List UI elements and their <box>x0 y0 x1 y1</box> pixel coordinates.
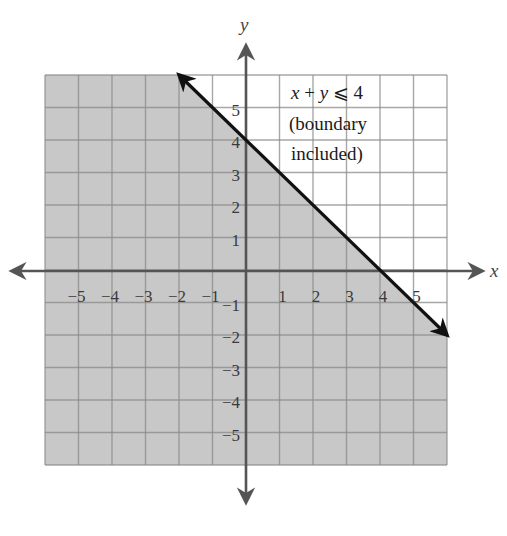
x-tick-label: −3 <box>134 287 152 306</box>
y-axis-label: y <box>238 14 249 35</box>
x-tick-label: 3 <box>345 287 354 306</box>
y-tick-label: −1 <box>222 296 240 315</box>
inequality-annotation: x + y ⩽ 4 <box>290 82 364 103</box>
x-tick-label: 1 <box>278 287 287 306</box>
x-tick-label: 4 <box>379 287 388 306</box>
anno-y: y <box>318 82 329 103</box>
x-tick-label: 5 <box>412 287 421 306</box>
y-tick-label: 5 <box>232 101 241 120</box>
y-tick-label: −4 <box>222 393 241 412</box>
y-tick-label: 4 <box>232 133 241 152</box>
x-tick-label: −1 <box>201 287 219 306</box>
y-tick-label: −5 <box>222 426 240 445</box>
x-axis-label: x <box>489 260 499 281</box>
x-tick-label: −4 <box>101 287 120 306</box>
x-tick-label: −5 <box>67 287 85 306</box>
annotation-boundary-line: (boundary <box>289 113 368 135</box>
y-tick-label: −3 <box>222 361 240 380</box>
y-tick-label: 2 <box>232 198 241 217</box>
y-tick-label: 3 <box>232 166 241 185</box>
y-tick-label: 1 <box>232 231 241 250</box>
y-tick-label: −2 <box>222 328 240 347</box>
annotation-included-line: included) <box>291 143 363 165</box>
anno-plus: + <box>299 82 319 103</box>
anno-rest: ⩽ 4 <box>328 82 364 103</box>
x-tick-label: −2 <box>168 287 186 306</box>
x-tick-label: 2 <box>312 287 321 306</box>
inequality-graph: −5−4−3−2−112345 54321−1−2−3−4−5 x y x + … <box>0 0 507 536</box>
